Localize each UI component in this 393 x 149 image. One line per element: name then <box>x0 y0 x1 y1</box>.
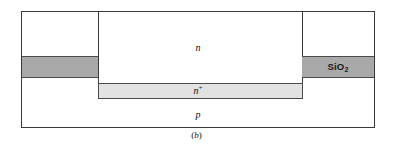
label-n-region: n <box>22 43 374 53</box>
oxide-layer-left <box>22 56 98 78</box>
label-p-region: p <box>22 110 374 120</box>
label-n-text: n <box>196 42 201 53</box>
sio2-label-subscript: 2 <box>344 66 348 73</box>
label-n-plus-region: n+ <box>22 86 374 96</box>
label-p-text: p <box>196 109 201 120</box>
figure-caption: (b) <box>0 131 393 140</box>
device-cross-section-outline: SiO2 n n+ p <box>21 11 375 128</box>
oxide-layer-right: SiO2 <box>302 56 374 78</box>
label-n-plus-superscript: + <box>199 84 203 92</box>
figure-container: SiO2 n n+ p (b) <box>0 0 393 149</box>
sio2-label-text: SiO <box>327 61 344 72</box>
caption-close-paren: ) <box>199 130 202 140</box>
sio2-label: SiO2 <box>327 62 348 72</box>
